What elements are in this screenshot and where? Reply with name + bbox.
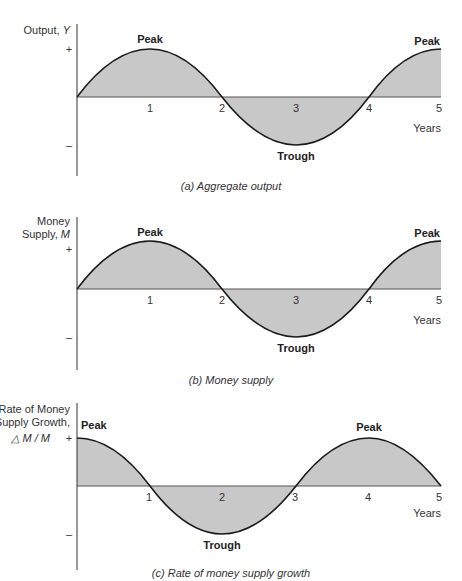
panel-a-aggregate-output: Output, Y + – Peak Trough Peak 1 2 3 4 5… — [24, 24, 443, 192]
panel-a-tick-3: 3 — [293, 102, 299, 114]
panel-c-minus: – — [66, 528, 73, 540]
panel-c-y-label-line2: Supply Growth, — [0, 416, 70, 428]
panel-a-y-label: Output, Y — [24, 24, 71, 36]
panel-c-caption: (c) Rate of money supply growth — [152, 567, 310, 579]
panel-b-tick-1: 1 — [147, 294, 153, 306]
panel-c-peak2-label: Peak — [356, 421, 383, 433]
panel-c-trough-label: Trough — [203, 539, 241, 551]
panel-b-x-label: Years — [413, 314, 441, 326]
panel-c-x-label: Years — [413, 507, 441, 519]
panel-a-tick-4: 4 — [366, 102, 372, 114]
panel-c-tick-3: 3 — [292, 491, 298, 503]
panel-b-tick-4: 4 — [366, 294, 372, 306]
panel-c-y-label-line1: Rate of Money — [0, 403, 70, 415]
panel-a-x-label: Years — [413, 122, 441, 134]
panel-b-tick-3: 3 — [293, 294, 299, 306]
panel-b-money-supply: Money Supply, M + – Peak Trough Peak 1 2… — [22, 215, 442, 386]
business-cycle-figure: Output, Y + – Peak Trough Peak 1 2 3 4 5… — [0, 0, 462, 581]
panel-b-caption: (b) Money supply — [189, 374, 275, 386]
panel-a-plus: + — [66, 43, 72, 55]
panel-a-caption: (a) Aggregate output — [181, 180, 282, 192]
panel-a-tick-1: 1 — [147, 102, 153, 114]
panel-b-peak-label: Peak — [137, 226, 164, 238]
panel-b-y-label-line2: Supply, M — [22, 228, 71, 240]
panel-c-money-growth: Rate of Money Supply Growth, △ M / M + –… — [0, 403, 442, 579]
panel-a-tick-2: 2 — [219, 102, 225, 114]
panel-b-plus: + — [66, 243, 72, 255]
panel-b-trough-label: Trough — [277, 342, 315, 354]
panel-a-tick-5: 5 — [436, 102, 442, 114]
panel-c-tick-5: 5 — [436, 491, 442, 503]
panel-c-peak-label: Peak — [81, 419, 108, 431]
panel-b-y-label-line1: Money — [37, 215, 71, 227]
panel-c-tick-4: 4 — [365, 491, 371, 503]
panel-b-peak2-label: Peak — [414, 227, 441, 239]
panel-a-peak-label: Peak — [137, 33, 164, 45]
panel-c-tick-2: 2 — [219, 491, 225, 503]
panel-b-minus: – — [66, 331, 73, 343]
panel-a-minus: – — [66, 139, 73, 151]
panel-a-peak2-label: Peak — [414, 35, 441, 47]
panel-c-plus: + — [66, 432, 72, 444]
panel-b-tick-5: 5 — [436, 294, 442, 306]
panel-c-y-label-line3: △ M / M — [10, 432, 50, 444]
panel-a-trough-label: Trough — [277, 150, 315, 162]
panel-c-tick-1: 1 — [146, 491, 152, 503]
panel-b-tick-2: 2 — [219, 294, 225, 306]
